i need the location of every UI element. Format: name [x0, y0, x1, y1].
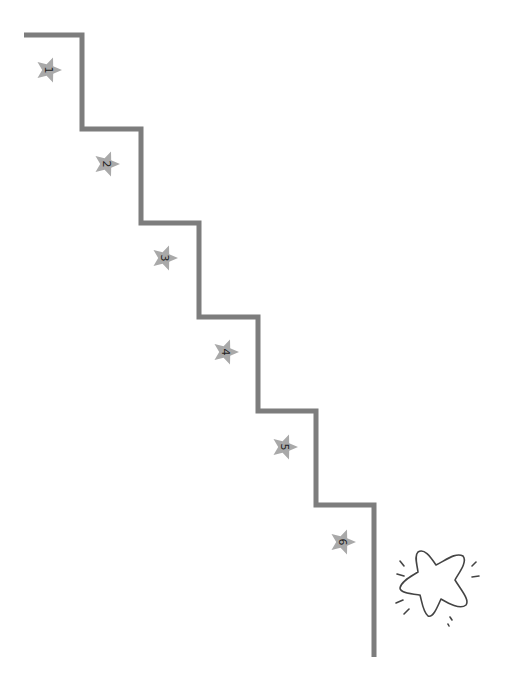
step-star-4: 4: [215, 340, 240, 365]
step-number: 4: [219, 349, 232, 356]
outline-star-icon: [400, 551, 467, 616]
step-number: 6: [336, 539, 349, 546]
step-number: 3: [158, 255, 171, 262]
step-star-1: 1: [38, 58, 63, 83]
step-number: 2: [100, 161, 113, 168]
step-star-5: 5: [274, 435, 299, 460]
step-star-3: 3: [154, 246, 179, 271]
step-number: 1: [42, 67, 55, 74]
step-star-6: 6: [332, 530, 357, 555]
step-star-2: 2: [96, 152, 121, 177]
staircase-diagram: 1 2 3 4 5 6: [0, 0, 506, 679]
step-number: 5: [278, 444, 291, 451]
goal-sparkle-star-icon: [396, 551, 479, 626]
staircase-line: [24, 35, 374, 657]
